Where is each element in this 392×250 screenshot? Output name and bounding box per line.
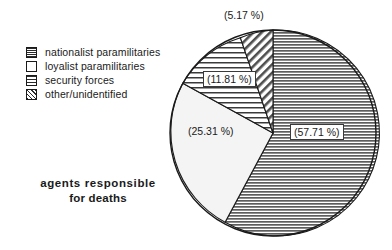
diagonal-hatch-icon [26, 89, 37, 100]
slice-value-loyalist-paramilitaries: (25.31 %) [186, 124, 236, 138]
slice-value-nationalist-paramilitaries: (57.71 %) [290, 124, 344, 140]
chart-legend: nationalist paramilitaries loyalist para… [26, 45, 176, 101]
legend-label: other/unidentified [45, 88, 127, 101]
legend-item-nationalist-paramilitaries: nationalist paramilitaries [26, 45, 176, 59]
chart-caption: agents responsible for deaths [22, 176, 174, 206]
caption-line-1: agents responsible [22, 176, 174, 191]
legend-item-security-forces: security forces [26, 73, 176, 87]
legend-label: security forces [45, 74, 114, 87]
legend-label: nationalist paramilitaries [45, 46, 160, 59]
slice-value-other-unidentified: (5.17 %) [222, 8, 266, 22]
slice-value-security-forces: (11.81 %) [203, 71, 256, 87]
legend-label: loyalist paramilitaries [45, 60, 145, 73]
pie-chart-figure: nationalist paramilitaries loyalist para… [0, 0, 392, 250]
white-fill-icon [26, 61, 37, 72]
sparse-horizontal-lines-icon [26, 75, 37, 86]
caption-line-2: for deaths [22, 191, 174, 206]
legend-item-other-unidentified: other/unidentified [26, 87, 176, 101]
dense-horizontal-lines-icon [26, 47, 37, 58]
legend-item-loyalist-paramilitaries: loyalist paramilitaries [26, 59, 176, 73]
